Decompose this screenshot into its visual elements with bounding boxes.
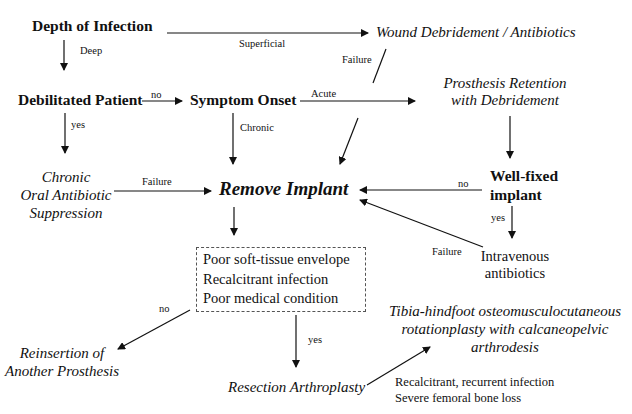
node-intravenous-antibiotics: Intravenous antibiotics [480,248,550,281]
label-deep: Deep [80,45,102,56]
label-no-criteria: no [159,303,170,314]
node-well-fixed-implant: Well-fixed implant [490,167,558,204]
label-yes-wellfixed: yes [491,212,505,223]
arrow-failure-wound [340,118,358,164]
arrow-failure-iv [360,200,483,247]
node-iv-line2: antibiotics [480,265,550,282]
node-wound-debridement: Wound Debridement / Antibiotics [376,24,576,41]
label-failure-oral: Failure [142,176,172,187]
node-reinsertion: Reinsertion of Another Prosthesis [2,344,122,380]
label-superficial: Superficial [239,38,285,49]
node-iv-line1: Intravenous [480,248,550,265]
arrow-no-criteria [118,310,190,349]
label-yes-criteria: yes [308,334,322,345]
node-symptom-onset: Symptom Onset [190,91,296,109]
node-debilitated-patient: Debilitated Patient [18,91,142,109]
node-chronic-suppression-line2: Oral Antibiotic [18,186,114,204]
node-rotationplasty-line2: rotationplasty with calcaneopelvic [375,320,632,338]
node-chronic-suppression: Chronic Oral Antibiotic Suppression [18,168,114,222]
node-remove-implant: Remove Implant [219,178,348,200]
node-chronic-suppression-line1: Chronic [18,168,114,186]
node-reinsertion-line2: Another Prosthesis [2,362,122,380]
node-well-fixed-line2: implant [490,186,558,205]
node-resection-arthroplasty: Resection Arthroplasty [228,379,365,396]
criteria-item: Poor soft-tissue envelope [203,250,359,270]
node-depth-of-infection: Depth of Infection [32,17,153,35]
line-failure-wound [373,49,386,83]
rotationplasty-indications: Recalcitrant, recurrent infection Severe… [395,374,554,407]
label-chronic: Chronic [240,122,274,133]
label-yes-debilitated: yes [71,119,85,130]
node-chronic-suppression-line3: Suppression [18,204,114,222]
label-no-debilitated: no [151,89,162,100]
criteria-item: Recalcitrant infection [203,270,359,290]
indication-item: Recalcitrant, recurrent infection [395,374,554,390]
node-rotationplasty-line3: arthrodesis [375,338,632,356]
node-prosthesis-retention-line2: with Debridement [430,92,580,109]
node-prosthesis-retention-line1: Prosthesis Retention [430,75,580,92]
indication-item: Severe femoral bone loss [395,390,554,406]
label-failure-iv: Failure [432,246,462,257]
node-rotationplasty-line1: Tibia-hindfoot osteomusculocutaneous [375,302,632,320]
label-acute: Acute [311,88,336,99]
node-rotationplasty: Tibia-hindfoot osteomusculocutaneous rot… [375,302,632,356]
node-well-fixed-line1: Well-fixed [490,167,558,186]
node-prosthesis-retention: Prosthesis Retention with Debridement [430,75,580,110]
node-reinsertion-line1: Reinsertion of [2,344,122,362]
label-no-wellfixed: no [458,178,469,189]
label-failure-wound: Failure [342,54,372,65]
criteria-item: Poor medical condition [203,289,359,309]
criteria-box: Poor soft-tissue envelope Recalcitrant i… [196,247,366,312]
